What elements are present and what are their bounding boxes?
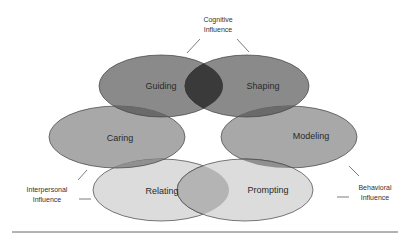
- leader-cognitive-left: [187, 39, 200, 53]
- leader-interpersonal-top: [78, 170, 87, 180]
- annotation-cognitive-line2: Influence: [204, 26, 233, 33]
- annotation-behavioral-line2: Influence: [361, 194, 390, 201]
- label-shaping: Shaping: [246, 81, 279, 91]
- annotation-behavioral-line1: Behavioral: [358, 184, 392, 191]
- label-prompting: Prompting: [247, 185, 288, 195]
- leader-behavioral-top: [349, 166, 359, 176]
- annotation-interpersonal-line2: Influence: [33, 196, 62, 203]
- label-caring: Caring: [107, 133, 134, 143]
- label-relating: Relating: [145, 186, 178, 196]
- annotation-interpersonal-line1: Interpersonal: [27, 186, 68, 194]
- label-guiding: Guiding: [145, 81, 176, 91]
- label-modeling: Modeling: [293, 131, 330, 141]
- leader-cognitive-right: [237, 39, 249, 52]
- annotation-cognitive-line1: Cognitive: [203, 16, 232, 24]
- influence-diagram: Guiding Shaping Caring Modeling Relating…: [0, 0, 413, 243]
